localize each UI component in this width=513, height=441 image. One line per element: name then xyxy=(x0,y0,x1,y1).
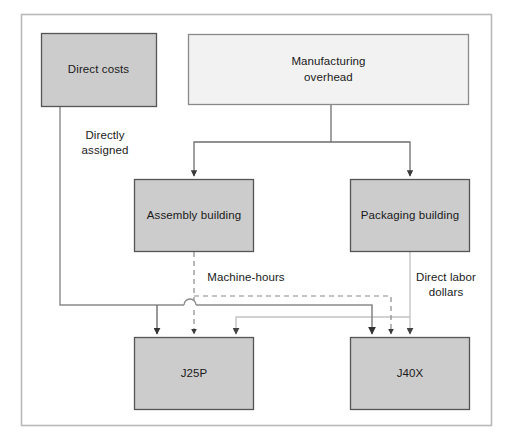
node-assembly-building[interactable] xyxy=(135,180,254,252)
cost-flow-diagram: Direct costs Manufacturing overhead Asse… xyxy=(0,0,513,441)
node-job-j25p[interactable] xyxy=(135,338,254,410)
diagram-canvas xyxy=(0,0,513,441)
node-job-j40x[interactable] xyxy=(351,338,470,410)
edge-label-machine-hours: Machine-hours xyxy=(200,270,292,285)
node-packaging-building[interactable] xyxy=(351,180,470,252)
node-manufacturing-overhead[interactable] xyxy=(189,35,469,105)
edge-label-direct-labor-dollars: Direct labor dollars xyxy=(406,270,486,300)
node-direct-costs[interactable] xyxy=(42,34,157,107)
edge-label-directly-assigned: Directly assigned xyxy=(70,128,140,158)
